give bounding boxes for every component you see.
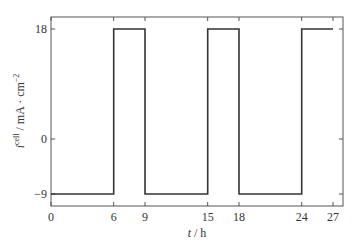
y-tick-label: −9 <box>34 187 47 201</box>
ticks <box>51 17 343 206</box>
y-axis-unit: / mA · cm <box>13 81 27 133</box>
x-tick-label: 27 <box>327 210 339 224</box>
x-tick-label: 15 <box>202 210 214 224</box>
x-tick-label: 9 <box>142 210 148 224</box>
x-tick-label: 6 <box>111 210 117 224</box>
chart: 06915182427−9018 t / h icell / mA · cm−2 <box>0 0 362 247</box>
y-axis-sup: cell <box>12 133 21 145</box>
x-axis-unit: / h <box>191 226 206 240</box>
x-axis-label: t / h <box>188 226 207 240</box>
plot-frame <box>51 17 343 206</box>
series-line <box>51 29 333 194</box>
x-tick-label: 18 <box>233 210 245 224</box>
x-tick-label: 24 <box>296 210 308 224</box>
y-axis-unit-sup: −2 <box>12 74 21 83</box>
x-tick-label: 0 <box>48 210 54 224</box>
y-axis-label: icell / mA · cm−2 <box>12 74 27 149</box>
y-tick-label: 0 <box>41 132 47 146</box>
y-tick-label: 18 <box>35 22 47 36</box>
